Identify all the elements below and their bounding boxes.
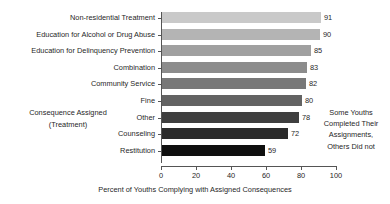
- x-axis-tick-label: 0: [149, 171, 173, 181]
- category-label: Restitution: [120, 145, 155, 156]
- y-axis-tick: [158, 101, 161, 102]
- x-axis-line: [161, 166, 337, 167]
- right-note-annotation: Some Youths Completed Their Assignments,…: [312, 107, 390, 152]
- bar-value-label: 91: [324, 12, 332, 23]
- x-axis-tick-label: 100: [324, 171, 348, 181]
- bar-chart: Non-residential TreatmentEducation for A…: [0, 0, 390, 204]
- category-label: Other: [137, 112, 155, 123]
- right-note-line-4: Others Did not: [312, 141, 390, 152]
- x-axis-tick: [196, 167, 197, 170]
- bar: [162, 145, 265, 156]
- right-note-line-3: Assignments,: [312, 129, 390, 140]
- bar: [162, 78, 306, 89]
- bar: [162, 45, 311, 56]
- x-axis-tick: [301, 167, 302, 170]
- y-axis-title-line-2: (Treatment): [14, 119, 122, 131]
- x-axis-tick-label: 20: [184, 171, 208, 181]
- category-label: Combination: [114, 62, 156, 73]
- category-label: Counseling: [118, 128, 155, 139]
- category-axis-labels: Non-residential TreatmentEducation for A…: [0, 12, 158, 162]
- x-axis-tick-label: 60: [254, 171, 278, 181]
- bar: [162, 29, 320, 40]
- y-axis-tick: [158, 134, 161, 135]
- y-axis-title-line-1: Consequence Assigned: [14, 107, 122, 119]
- plot-area: 919085838280787259: [161, 12, 336, 162]
- y-axis-tick: [158, 35, 161, 36]
- bar-value-label: 83: [310, 62, 318, 73]
- x-axis-tick-label: 80: [289, 171, 313, 181]
- y-axis-tick: [158, 84, 161, 85]
- x-axis-tick: [161, 167, 162, 170]
- bar-value-label: 82: [309, 78, 317, 89]
- bar: [162, 12, 321, 23]
- x-axis-tick-label: 40: [219, 171, 243, 181]
- bar-value-label: 85: [314, 45, 322, 56]
- bar-value-label: 78: [302, 112, 310, 123]
- bar-value-label: 59: [268, 145, 276, 156]
- y-axis-title: Consequence Assigned (Treatment): [14, 107, 122, 130]
- bar-value-label: 90: [323, 29, 331, 40]
- bar-value-label: 80: [305, 95, 313, 106]
- bar: [162, 128, 288, 139]
- y-axis-tick: [158, 151, 161, 152]
- category-label: Fine: [141, 95, 155, 106]
- y-axis-tick: [158, 18, 161, 19]
- category-label: Non-residential Treatment: [70, 12, 155, 23]
- bar-value-label: 72: [291, 128, 299, 139]
- right-note-line-1: Some Youths: [312, 107, 390, 118]
- x-axis-tick: [266, 167, 267, 170]
- y-axis-tick: [158, 51, 161, 52]
- x-axis-tick: [231, 167, 232, 170]
- category-label: Education for Delinquency Prevention: [31, 45, 155, 56]
- y-axis-tick: [158, 68, 161, 69]
- category-label: Education for Alcohol or Drug Abuse: [36, 29, 155, 40]
- y-axis-tick: [158, 118, 161, 119]
- bar: [162, 112, 299, 123]
- right-note-line-2: Completed Their: [312, 118, 390, 129]
- x-axis-title: Percent of Youths Complying with Assigne…: [0, 185, 390, 194]
- bar: [162, 95, 302, 106]
- x-axis-tick: [336, 167, 337, 170]
- bar: [162, 62, 307, 73]
- category-label: Community Service: [91, 78, 155, 89]
